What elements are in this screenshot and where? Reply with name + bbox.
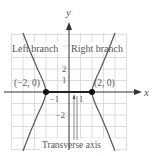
vertex-right-point bbox=[89, 89, 95, 95]
annotation-arrowhead-icon bbox=[73, 94, 76, 99]
x-tick-1: 1 bbox=[79, 94, 83, 104]
transverse-axis-label: Transverse axis bbox=[42, 140, 101, 150]
x-axis-arrow-icon bbox=[134, 89, 142, 95]
y-tick-2: 2 bbox=[62, 64, 66, 74]
right-branch-label: Right branch bbox=[71, 43, 123, 54]
y-axis-arrow-icon bbox=[66, 22, 72, 30]
vertex-right-label: (2, 0) bbox=[94, 78, 115, 89]
vertex-left-label: (−2, 0) bbox=[14, 78, 40, 89]
vertex-left-point bbox=[43, 89, 49, 95]
x-axis-label: x bbox=[143, 86, 149, 98]
y-tick-1: 1 bbox=[62, 75, 66, 85]
left-branch-label: Left branch bbox=[12, 43, 58, 54]
hyperbola-diagram: y x Left branch Right branch (−2, 0) (2,… bbox=[0, 0, 154, 156]
x-tick-neg1: −1 bbox=[50, 94, 59, 104]
y-axis-label: y bbox=[65, 6, 71, 18]
y-tick-neg2: −2 bbox=[56, 110, 65, 120]
